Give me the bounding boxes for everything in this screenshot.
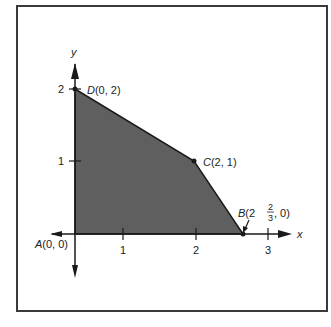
- svg-text:B(2: B(2: [238, 207, 255, 219]
- x-tick-label-3: 3: [265, 244, 271, 256]
- point-d-marker: [73, 87, 78, 92]
- point-c-marker: [192, 159, 197, 164]
- point-a-label: A(0, 0): [34, 238, 68, 250]
- x-axis-arrow-right-icon: [278, 230, 292, 238]
- x-tick-label-1: 1: [120, 244, 126, 256]
- svg-text:2: 2: [268, 202, 273, 212]
- y-axis-arrow-up-icon: [71, 63, 79, 79]
- x-tick-label-2: 2: [193, 244, 199, 256]
- point-c-label: C(2, 1): [203, 156, 237, 168]
- y-tick-label-1: 1: [58, 155, 64, 167]
- y-axis-label: y: [70, 46, 78, 58]
- x-axis-label: x: [296, 228, 303, 240]
- y-axis-arrow-down-icon: [72, 265, 78, 278]
- svg-text:3: 3: [268, 213, 273, 223]
- point-b-pointer-arrowhead-icon: [243, 226, 248, 233]
- svg-text:, 0): , 0): [274, 207, 290, 219]
- point-d-label: D(0, 2): [87, 84, 121, 96]
- feasible-region-diagram: 1 2 3 1 2 x y D(0, 2) C(2, 1) A(0, 0) B(…: [0, 0, 331, 327]
- point-b-label: B(2 2 3 , 0): [238, 202, 290, 223]
- y-tick-label-2: 2: [58, 83, 64, 95]
- x-axis-arrow-left-icon: [50, 231, 62, 237]
